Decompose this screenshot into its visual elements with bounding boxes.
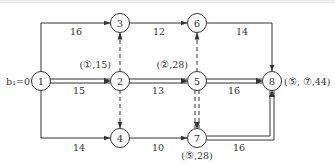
edge-5-7	[194, 90, 200, 129]
edge-weight-5-8: 16	[228, 85, 240, 96]
edge-7-8	[207, 90, 275, 140]
edge-weight-6-8: 14	[236, 26, 248, 37]
edge-weight-2-5: 13	[152, 85, 164, 96]
node-5: 5	[188, 72, 207, 91]
svg-text:6: 6	[194, 18, 200, 29]
edge-1-4	[41, 90, 110, 138]
node-1: 1	[32, 72, 51, 91]
node-8-annotation: (⑤, ⑦,44)	[284, 76, 331, 87]
node-3: 3	[111, 14, 130, 33]
node-4: 4	[111, 129, 130, 148]
edge-weight-1-2: 15	[73, 85, 85, 96]
edge-5-8	[206, 78, 263, 84]
node-7-annotation: (⑤,28)	[181, 150, 213, 161]
svg-text:7: 7	[194, 133, 200, 144]
edge-weight-1-3: 16	[70, 26, 82, 37]
node-2: 2	[111, 72, 130, 91]
svg-text:8: 8	[269, 76, 275, 87]
node-6: 6	[188, 14, 207, 33]
svg-text:1: 1	[38, 76, 44, 87]
edge-weight-7-8: 16	[233, 142, 245, 153]
edge-1-2	[50, 78, 111, 84]
node-8: 8	[263, 72, 282, 91]
node-7: 7	[188, 129, 207, 148]
edge-weight-3-6: 12	[153, 26, 165, 37]
edge-2-5	[129, 78, 188, 84]
edge-weight-4-7: 10	[152, 142, 164, 153]
node-2-annotation: (①,15)	[79, 59, 111, 70]
node-5-annotation: (②,28)	[156, 59, 188, 70]
edge-weight-1-4: 14	[73, 142, 85, 153]
network-diagram: 16 15 14 12 13 10 16 14 16 1 2 3 4 5	[0, 0, 335, 164]
start-label: b₁=0	[6, 76, 30, 87]
svg-text:3: 3	[117, 18, 123, 29]
svg-text:4: 4	[117, 133, 123, 144]
svg-text:2: 2	[117, 76, 123, 87]
svg-text:5: 5	[194, 76, 200, 87]
